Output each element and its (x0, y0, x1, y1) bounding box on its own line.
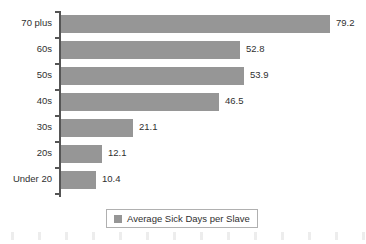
value-label: 53.9 (250, 69, 269, 81)
bar-row: 20s 12.1 (0, 141, 366, 167)
bar-row: 60s 52.8 (0, 37, 366, 63)
value-label: 10.4 (102, 173, 121, 185)
value-label: 46.5 (225, 95, 244, 107)
value-label: 52.8 (246, 43, 265, 55)
bar-row: Under 20 10.4 (0, 167, 366, 193)
bar[interactable] (61, 41, 240, 59)
category-label: 40s (0, 95, 52, 107)
category-label: 50s (0, 69, 52, 81)
bar[interactable] (61, 171, 96, 189)
axis-tick (55, 193, 60, 195)
bar[interactable] (61, 93, 219, 111)
value-label: 79.2 (336, 17, 355, 29)
category-label: 60s (0, 43, 52, 55)
bar[interactable] (61, 15, 330, 33)
chart-legend: Average Sick Days per Slave (106, 209, 258, 228)
category-label: 20s (0, 147, 52, 159)
category-label: Under 20 (0, 173, 52, 185)
bar-row: 70 plus 79.2 (0, 11, 366, 37)
legend-label: Average Sick Days per Slave (127, 213, 250, 225)
value-label: 12.1 (108, 147, 127, 159)
value-label: 21.1 (139, 121, 158, 133)
bar[interactable] (61, 119, 133, 137)
plot-area: 70 plus 79.2 60s 52.8 50s 53.9 40s 46.5 … (0, 0, 366, 200)
legend-swatch-icon (114, 215, 122, 223)
category-label: 30s (0, 121, 52, 133)
bar-row: 30s 21.1 (0, 115, 366, 141)
scan-artifact (0, 232, 366, 240)
bar-chart: 70 plus 79.2 60s 52.8 50s 53.9 40s 46.5 … (0, 0, 366, 244)
bar-row: 50s 53.9 (0, 63, 366, 89)
bar[interactable] (61, 67, 244, 85)
category-label: 70 plus (0, 17, 52, 29)
bar-row: 40s 46.5 (0, 89, 366, 115)
bar[interactable] (61, 145, 102, 163)
